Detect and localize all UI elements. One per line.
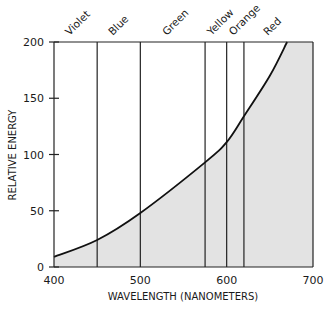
- y-tick-label: 0: [37, 261, 44, 274]
- band-label-orange: Orange: [226, 1, 262, 37]
- y-tick-label: 150: [23, 92, 44, 105]
- x-tick-label: 700: [303, 274, 324, 287]
- x-tick-label: 400: [44, 274, 65, 287]
- y-tick-label: 200: [23, 36, 44, 49]
- area-fill: [54, 42, 313, 267]
- x-tick-label: 600: [216, 274, 237, 287]
- energy-wavelength-chart: 050100150200 400500600700 VioletBlueGree…: [0, 0, 331, 310]
- x-axis-ticks: 400500600700: [44, 274, 324, 287]
- x-axis-title: WAVELENGTH (NANOMETERS): [108, 291, 259, 302]
- y-tick-label: 100: [23, 149, 44, 162]
- band-label-violet: Violet: [63, 8, 93, 38]
- area-under-curve: [54, 42, 313, 267]
- y-axis-title: RELATIVE ENERGY: [7, 109, 18, 201]
- band-label-red: Red: [261, 15, 284, 38]
- color-band-labels: VioletBlueGreenYellowOrangeRed: [63, 1, 284, 38]
- x-tick-label: 500: [130, 274, 151, 287]
- band-label-blue: Blue: [106, 12, 131, 37]
- band-label-green: Green: [160, 6, 191, 37]
- y-tick-label: 50: [30, 205, 44, 218]
